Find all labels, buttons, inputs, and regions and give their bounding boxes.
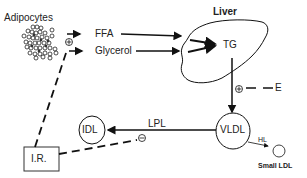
adipocyte-cluster-icon	[22, 25, 58, 60]
vldl-label: VLDL	[220, 125, 245, 135]
e-label: E	[275, 83, 282, 93]
lpl-label: LPL	[148, 119, 166, 129]
adipocytes-label: Adipocytes	[4, 13, 53, 23]
glycerol-label: Glycerol	[95, 46, 132, 56]
diagram-canvas: Adipocytes FFA Glycerol Liver TG E VLDL …	[0, 0, 307, 178]
diagram-graphics	[0, 0, 307, 178]
idl-label: IDL	[82, 125, 98, 135]
small-ldl-circle	[273, 145, 285, 157]
hl-label: HL	[258, 136, 267, 143]
liver-label: Liver	[213, 7, 237, 17]
ffa-to-liver-arrow	[121, 34, 181, 36]
small-ldl-label: Small LDL	[258, 162, 292, 169]
ffa-label: FFA	[95, 29, 113, 39]
ir-to-adipocyte-dashed-line	[35, 50, 67, 147]
ir-label: I.R.	[31, 154, 47, 164]
tg-label: TG	[223, 40, 237, 50]
